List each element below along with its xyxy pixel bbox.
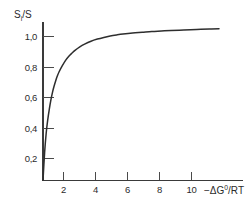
x-axis-title-tail: /RT — [228, 185, 244, 196]
y-axis-ticks — [43, 37, 54, 159]
data-curve-saturation — [43, 29, 219, 181]
y-tick-label-0.6: 0,6 — [25, 92, 37, 103]
y-axis-title-tail: /S — [22, 9, 32, 20]
x-axis-ticks — [64, 172, 192, 180]
y-tick-label-1.0: 1,0 — [25, 31, 37, 42]
y-tick-label-0.4: 0,4 — [25, 123, 37, 134]
x-tick-label-10: 10 — [187, 184, 197, 195]
x-tick-label-2: 2 — [61, 184, 66, 195]
y-axis-title: Si/S — [14, 9, 32, 22]
saturation-curve-chart: 1,0 0,8 0,6 0,4 0,2 2 4 6 8 10 Si/S −ΔG0… — [0, 0, 251, 220]
x-tick-label-6: 6 — [125, 184, 130, 195]
x-tick-label-8: 8 — [157, 184, 162, 195]
y-tick-label-0.8: 0,8 — [25, 62, 37, 73]
x-axis-title: −ΔG0/RT — [204, 184, 244, 196]
x-tick-label-4: 4 — [93, 184, 98, 195]
chart-figure: 1,0 0,8 0,6 0,4 0,2 2 4 6 8 10 Si/S −ΔG0… — [0, 0, 251, 220]
y-tick-label-0.2: 0,2 — [25, 153, 37, 164]
